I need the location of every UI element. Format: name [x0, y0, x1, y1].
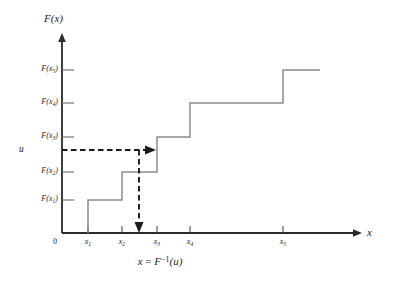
inverse-vertical-dashed-arrow — [135, 150, 144, 233]
y-tick-label-1-close: ) — [55, 194, 58, 203]
origin-label: 0 — [53, 238, 57, 246]
y-tick-label-4: F(x4) — [24, 98, 58, 107]
x-tick-label-2-sub: 2 — [122, 241, 125, 247]
x-tick-label-3: x3 — [147, 238, 167, 247]
y-tick-label-2: F(x2) — [24, 167, 58, 176]
x-tick-marks-group — [88, 226, 283, 233]
y-tick-label-3-close: ) — [55, 131, 58, 140]
figure-container: F(x) x 0 u F(x5) F(x4) F(x3) F(x2) F(x1)… — [0, 0, 394, 282]
y-tick-label-2-close: ) — [55, 166, 58, 175]
x-tick-label-5-sub: 5 — [283, 241, 286, 247]
y-tick-label-1: F(x1) — [24, 195, 58, 204]
cdf-step-curve — [88, 70, 320, 233]
u-arrowhead-icon — [145, 146, 156, 155]
caption-arg: (u) — [169, 255, 182, 267]
x-tick-label-2: x2 — [112, 238, 132, 247]
x-tick-label-5: x5 — [273, 238, 293, 247]
y-tick-label-3-base: F(x — [41, 131, 52, 140]
x-tick-label-4-sub: 4 — [190, 241, 193, 247]
x-axis-title: x — [367, 227, 372, 238]
y-axis-arrowhead — [58, 33, 66, 42]
y-tick-label-2-base: F(x — [41, 166, 52, 175]
x-tick-label-3-sub: 3 — [157, 241, 160, 247]
caption: x = F−1(u) — [100, 256, 220, 267]
axes-group — [58, 33, 362, 237]
x-axis-arrowhead — [353, 229, 362, 237]
x-tick-label-4: x4 — [180, 238, 200, 247]
u-horizontal-dashed-arrow — [62, 146, 156, 155]
y-tick-label-3: F(x3) — [24, 132, 58, 141]
u-label: u — [19, 145, 24, 155]
y-axis-title: F(x) — [44, 13, 63, 24]
x-tick-label-1-sub: 1 — [88, 241, 91, 247]
y-tick-label-4-base: F(x — [41, 97, 52, 106]
y-tick-label-5-base: F(x — [41, 64, 52, 73]
y-tick-label-5: F(x5) — [24, 65, 58, 74]
y-tick-label-4-close: ) — [55, 97, 58, 106]
y-tick-marks-group — [62, 70, 74, 200]
inverse-arrowhead-icon — [135, 222, 144, 233]
x-tick-label-1: x1 — [78, 238, 98, 247]
y-tick-label-5-close: ) — [55, 64, 58, 73]
y-tick-label-1-base: F(x — [41, 194, 52, 203]
